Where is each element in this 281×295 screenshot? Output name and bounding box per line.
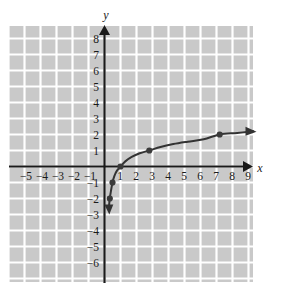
y-tick-label: −5 bbox=[87, 241, 99, 253]
curve-point bbox=[217, 131, 223, 137]
x-tick-label: −3 bbox=[52, 170, 64, 182]
x-tick-label: −2 bbox=[68, 170, 80, 182]
x-tick-label: 7 bbox=[213, 170, 219, 182]
x-axis-label: x bbox=[256, 161, 263, 175]
y-axis-label: y bbox=[102, 8, 109, 22]
y-tick-label: 8 bbox=[93, 33, 99, 45]
y-tick-label: 7 bbox=[93, 49, 99, 61]
y-tick-label: −3 bbox=[87, 209, 99, 221]
x-tick-label: −4 bbox=[36, 170, 48, 182]
y-tick-label: −4 bbox=[87, 225, 99, 237]
x-tick-label: 2 bbox=[133, 170, 139, 182]
graph-figure: x y −5−4−3−2−1123456789 87654321−1−2−3−4… bbox=[0, 0, 281, 295]
y-tick-label: −6 bbox=[87, 257, 99, 269]
x-tick-label: 4 bbox=[165, 170, 171, 182]
coordinate-plane-svg: x y −5−4−3−2−1123456789 87654321−1−2−3−4… bbox=[0, 0, 281, 295]
x-tick-label: 6 bbox=[197, 170, 203, 182]
y-tick-label: −2 bbox=[87, 193, 99, 205]
y-tick-label: 6 bbox=[93, 65, 99, 77]
x-tick-label: 9 bbox=[245, 170, 251, 182]
x-tick-labels: −5−4−3−2−1123456789 bbox=[20, 170, 251, 182]
curve-point bbox=[146, 147, 152, 153]
y-tick-label: 2 bbox=[93, 129, 99, 141]
y-tick-label: 5 bbox=[93, 81, 99, 93]
x-tick-label: 1 bbox=[117, 170, 123, 182]
x-tick-label: 3 bbox=[149, 170, 155, 182]
curve-point bbox=[109, 179, 115, 185]
curve-point bbox=[107, 195, 113, 201]
x-tick-label: 5 bbox=[181, 170, 187, 182]
y-tick-label: 3 bbox=[93, 113, 99, 125]
curve-point bbox=[117, 163, 123, 169]
y-tick-label: 4 bbox=[93, 97, 99, 109]
x-tick-label: 8 bbox=[229, 170, 235, 182]
x-tick-label: −5 bbox=[20, 170, 32, 182]
y-tick-label: −1 bbox=[87, 177, 99, 189]
y-tick-label: 1 bbox=[93, 145, 99, 157]
